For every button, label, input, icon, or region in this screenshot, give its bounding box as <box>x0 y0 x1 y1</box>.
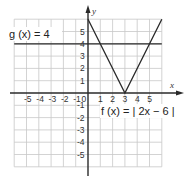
f-function-label: f (x) = | 2x − 6 | <box>101 105 175 117</box>
svg-text:3: 3 <box>123 94 128 104</box>
svg-text:5: 5 <box>80 27 85 37</box>
svg-text:3: 3 <box>80 51 85 61</box>
svg-text:-3: -3 <box>77 125 85 135</box>
svg-text:-2: -2 <box>77 113 85 123</box>
svg-text:-1: -1 <box>77 100 85 110</box>
svg-text:-3: -3 <box>49 94 57 104</box>
svg-text:2: 2 <box>110 94 115 104</box>
svg-text:-4: -4 <box>36 94 44 104</box>
svg-text:1: 1 <box>98 94 103 104</box>
svg-text:4: 4 <box>135 94 140 104</box>
x-axis-arrow-icon <box>176 91 184 96</box>
y-axis-label: y <box>91 6 96 16</box>
svg-text:-5: -5 <box>77 150 85 160</box>
svg-text:-4: -4 <box>77 137 85 147</box>
svg-text:5: 5 <box>147 94 152 104</box>
g-function-label: g (x) = 4 <box>9 28 50 40</box>
svg-text:1: 1 <box>80 76 85 86</box>
y-axis-arrow-icon <box>86 5 91 13</box>
svg-text:2: 2 <box>80 63 85 73</box>
svg-text:-2: -2 <box>61 94 69 104</box>
svg-text:4: 4 <box>80 39 85 49</box>
svg-text:-5: -5 <box>24 94 32 104</box>
x-axis-label: x <box>169 80 174 90</box>
coordinate-graph: x y -5 -4 -3 -2 -1 0 1 2 3 4 5 5 4 3 2 1… <box>0 0 188 181</box>
